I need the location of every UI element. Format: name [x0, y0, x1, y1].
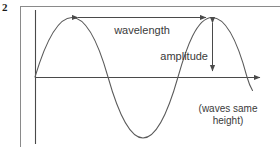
wave-diagram-canvas: wavelength amplitude (waves same height)	[0, 0, 280, 147]
wave-diagram-figure: 2 wavelength	[0, 0, 280, 147]
waves-same-height-note-line1: (waves same	[199, 103, 258, 114]
amplitude-label: amplitude	[160, 50, 208, 62]
wavelength-label: wavelength	[113, 24, 170, 36]
waves-same-height-note-line2: height)	[213, 115, 244, 126]
